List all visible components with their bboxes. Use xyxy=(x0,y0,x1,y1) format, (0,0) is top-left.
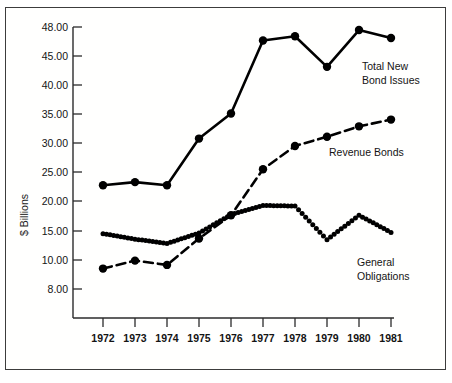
data-point xyxy=(317,230,322,235)
data-point xyxy=(296,207,301,212)
data-point xyxy=(293,204,298,209)
series-revenue-bonds xyxy=(99,115,395,272)
series-annotation-go-line1: General xyxy=(357,256,394,268)
data-point xyxy=(355,26,363,34)
series-line xyxy=(103,120,391,269)
data-point xyxy=(227,109,235,117)
data-point xyxy=(303,215,308,220)
x-tick-label-1975: 1975 xyxy=(187,332,211,344)
x-tick-label-1972: 1972 xyxy=(91,332,115,344)
data-point xyxy=(163,261,171,269)
y-tick-label-10: 10.00 xyxy=(42,254,68,266)
y-tick-label-20: 20.00 xyxy=(42,195,68,207)
chart-figure: 48.00 45.00 40.00 35.00 30.00 25.00 20.0… xyxy=(0,0,452,383)
series-total-new-bond-issues xyxy=(99,26,395,190)
series-annotation-total-line2: Bond Issues xyxy=(362,74,420,86)
data-point xyxy=(131,178,139,186)
chart-plot-area: 48.00 45.00 40.00 35.00 30.00 25.00 20.0… xyxy=(0,0,452,383)
data-point xyxy=(307,219,312,224)
data-point xyxy=(131,256,139,264)
x-tick-marks xyxy=(103,318,391,327)
y-tick-label-30: 30.00 xyxy=(42,137,68,149)
x-tick-label-1973: 1973 xyxy=(123,332,147,344)
y-tick-label-8: 8.00 xyxy=(48,283,69,295)
data-point xyxy=(355,122,363,130)
y-tick-label-25: 25.00 xyxy=(42,166,68,178)
data-point xyxy=(99,181,107,189)
x-tick-label-1980: 1980 xyxy=(347,332,371,344)
y-tick-label-15: 15.00 xyxy=(42,225,68,237)
data-point xyxy=(259,36,267,44)
series-annotation-go-line2: Obligations xyxy=(357,270,410,282)
data-point xyxy=(195,134,203,142)
data-point xyxy=(314,226,319,231)
y-axis-title: $ Billions xyxy=(18,194,30,236)
data-point xyxy=(259,165,267,173)
series-annotation-total-line1: Total New xyxy=(362,60,409,72)
x-tick-label-1974: 1974 xyxy=(155,332,179,344)
series-line xyxy=(103,30,391,185)
y-tick-label-48: 48.00 xyxy=(42,21,68,33)
data-point xyxy=(291,142,299,150)
series-annotation-revenue: Revenue Bonds xyxy=(329,146,404,158)
x-tick-label-1978: 1978 xyxy=(283,332,307,344)
y-tick-label-35: 35.00 xyxy=(42,108,68,120)
data-point xyxy=(387,34,395,42)
data-point xyxy=(387,115,395,123)
y-tick-label-40: 40.00 xyxy=(42,79,68,91)
y-tick-marks xyxy=(73,27,82,289)
x-tick-label-1979: 1979 xyxy=(315,332,339,344)
data-point xyxy=(310,222,315,227)
x-tick-label-1977: 1977 xyxy=(251,332,275,344)
data-point xyxy=(323,63,331,71)
data-point xyxy=(99,264,107,272)
data-point xyxy=(321,234,326,239)
series-general-obligations xyxy=(101,203,394,246)
data-point xyxy=(291,32,299,40)
data-point xyxy=(300,211,305,216)
data-point xyxy=(323,133,331,141)
x-tick-label-1981: 1981 xyxy=(379,332,403,344)
data-point xyxy=(163,181,171,189)
y-tick-label-45: 45.00 xyxy=(42,50,68,62)
x-tick-label-1976: 1976 xyxy=(219,332,243,344)
data-point xyxy=(389,230,394,235)
